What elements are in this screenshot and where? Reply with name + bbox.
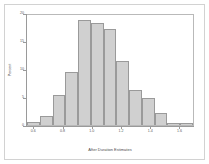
y-axis-tick-label: 0 [22,124,24,128]
histogram-bar [78,20,91,125]
histogram-figure: 05101520 0.60.81.01.21.41.6 After Durati… [0,0,209,164]
x-axis-tick-label: 1.0 [89,130,94,134]
histogram-bar [142,98,155,125]
y-axis-tick-label: 5 [22,96,24,100]
y-axis-title: Percent [9,64,13,76]
histogram-bars [27,15,193,125]
y-axis-tick-label: 20 [20,12,24,16]
histogram-bar [104,29,117,125]
x-axis-tick-label: 1.6 [177,130,182,134]
histogram-bar [65,72,78,125]
histogram-bar [180,123,193,125]
plot-area [26,14,194,126]
histogram-bar [91,23,104,125]
histogram-bar [40,116,53,125]
x-axis-tick-label: 0.8 [60,130,65,134]
x-axis-tick-label: 0.6 [31,130,36,134]
histogram-bar [116,61,129,125]
histogram-bar [53,95,66,125]
x-axis-tick-label: 1.2 [118,130,123,134]
histogram-bar [155,113,168,125]
y-axis: 05101520 [26,14,27,126]
y-axis-tick-label: 10 [20,68,24,72]
histogram-bar [129,90,142,125]
x-axis-title: After Duration Estimates [26,148,194,152]
x-axis-tick-label: 1.4 [148,130,153,134]
y-axis-tick-label: 15 [20,40,24,44]
histogram-bar [27,122,40,125]
histogram-bar [167,123,180,125]
x-axis: 0.60.81.01.21.41.6 [26,126,194,127]
